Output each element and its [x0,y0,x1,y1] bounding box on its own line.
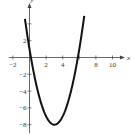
x-tick-label: 4 [61,61,65,69]
x-tick-label: −2 [9,61,17,69]
x-axis-arrow [120,56,125,60]
y-tick-label: −6 [19,104,27,112]
y-tick-label: 2 [23,37,27,45]
x-tick-label: 10 [109,61,117,69]
parabola-curve [25,16,84,125]
x-tick-label: 8 [94,61,98,69]
x-axis-label: x [126,54,131,62]
y-tick-label: −2 [19,71,27,79]
parabola-chart: −2248102−2−4−6−8 x y [0,0,134,134]
y-axis-label: y [30,0,35,4]
x-tick-label: 2 [44,61,48,69]
y-tick-label: −4 [19,88,27,96]
y-tick-label: −8 [19,121,27,129]
